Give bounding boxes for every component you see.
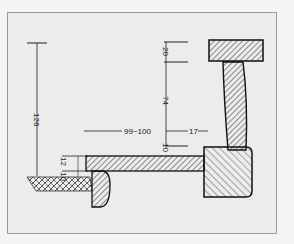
label-17: 17 bbox=[189, 127, 198, 136]
label-99-100: 99~100 bbox=[124, 127, 151, 136]
label-126: 126 bbox=[32, 113, 41, 127]
base-block bbox=[204, 147, 252, 197]
cross-section-drawing: 126 20 74 10 99~100 17 12 10 bbox=[0, 0, 294, 244]
lower-support bbox=[92, 171, 110, 207]
label-12: 12 bbox=[59, 157, 68, 166]
dimension-20-74: 20 74 10 bbox=[161, 42, 188, 152]
dimension-99-100: 99~100 bbox=[84, 127, 151, 136]
dimension-126: 126 bbox=[27, 43, 47, 176]
label-20: 20 bbox=[161, 47, 170, 56]
slab bbox=[86, 156, 204, 171]
dimension-17: 17 bbox=[166, 127, 208, 136]
ground bbox=[27, 177, 92, 191]
post bbox=[223, 62, 247, 150]
rail-cap bbox=[209, 40, 263, 61]
label-74: 74 bbox=[161, 96, 170, 105]
label-10-top: 10 bbox=[161, 143, 170, 152]
